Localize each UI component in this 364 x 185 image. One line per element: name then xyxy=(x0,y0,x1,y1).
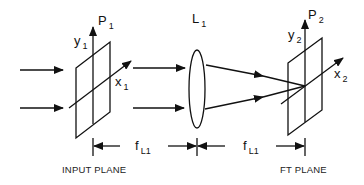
input-plane-caption: INPUT PLANE xyxy=(62,164,126,175)
lens-l1 xyxy=(189,50,205,128)
y1-axis-label: y1 xyxy=(74,34,88,47)
distance-label-1: fL1 xyxy=(135,139,151,152)
converging-rays xyxy=(205,65,305,109)
rays-to-lens xyxy=(133,68,185,108)
incoming-rays xyxy=(20,70,63,108)
x2-axis-arrow xyxy=(281,58,343,104)
distance-markers xyxy=(93,138,305,156)
ft-plane-caption: FT PLANE xyxy=(280,164,327,175)
input-plane-label: P1 xyxy=(98,14,114,27)
lens-label: L1 xyxy=(192,12,206,25)
x2-axis-label: x2 xyxy=(334,67,348,80)
distance-label-2: fL1 xyxy=(243,139,259,152)
x1-axis-label: x1 xyxy=(115,75,129,88)
optical-diagram xyxy=(0,0,364,185)
ft-plane-label: P2 xyxy=(308,8,324,21)
y2-axis-label: y2 xyxy=(288,28,302,41)
